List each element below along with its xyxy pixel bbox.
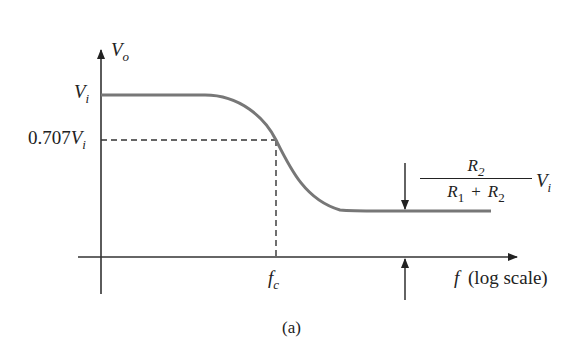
v707-level-label: 0.707Vi <box>28 128 86 147</box>
fraction-denominator: R1+R2 <box>420 179 532 202</box>
cutoff-frequency-label: fc <box>268 268 279 287</box>
x-axis-label: f (log scale) <box>454 268 548 287</box>
fraction-numerator: R2 <box>420 156 532 178</box>
divider-ratio-fraction: R2 R1+R2 <box>420 156 532 202</box>
y-axis-label: Vo <box>111 40 129 59</box>
ratio-vi-factor: Vi <box>536 171 551 190</box>
vi-level-label: Vi <box>74 82 89 101</box>
figure-caption: (a) <box>282 319 301 336</box>
